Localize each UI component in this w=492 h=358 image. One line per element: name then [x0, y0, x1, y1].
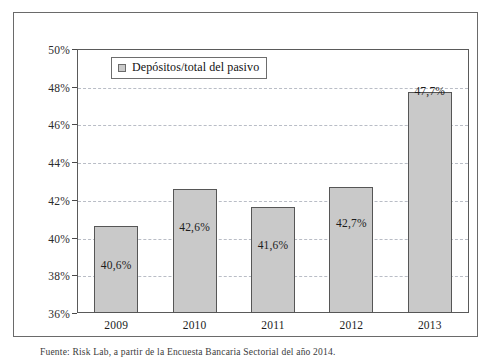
y-axis-tick: 46%	[14, 115, 77, 133]
bar-value-label: 42,6%	[179, 221, 210, 233]
bar-slot: 42,7%	[312, 49, 390, 313]
bar-slot: 42,6%	[155, 49, 233, 313]
y-axis-tick: 36%	[14, 304, 77, 322]
bar-slot: 41,6%	[234, 49, 312, 313]
bars-layer: 40,6%42,6%41,6%42,7%47,7%	[77, 49, 469, 313]
bar-slot: 40,6%	[77, 49, 155, 313]
chart-legend: Depósitos/total del pasivo	[111, 57, 267, 79]
x-axis-tick-label: 2013	[418, 319, 442, 331]
bar[interactable]	[329, 187, 373, 313]
x-axis-tick-label: 2010	[183, 319, 207, 331]
y-axis-tick-label: 36%	[48, 308, 77, 320]
y-axis: 50%48%46%44%42%40%38%36%	[14, 13, 77, 336]
y-axis-tick-label: 42%	[48, 195, 77, 207]
y-axis-tick-label: 46%	[48, 119, 77, 131]
bar-value-label: 40,6%	[101, 259, 132, 271]
bar[interactable]	[173, 189, 217, 313]
x-axis-tick-label: 2011	[261, 319, 284, 331]
legend-swatch-icon	[118, 64, 126, 72]
y-axis-tick: 44%	[14, 153, 77, 171]
y-axis-tick-mark	[72, 313, 77, 314]
bar-value-label: 42,7%	[336, 217, 367, 229]
y-axis-tick: 40%	[14, 229, 77, 247]
y-axis-tick: 48%	[14, 78, 77, 96]
figure-caption: Fuente: Risk Lab, a partir de la Encuest…	[40, 347, 470, 357]
y-axis-tick-label: 38%	[48, 270, 77, 282]
legend-label: Depósitos/total del pasivo	[132, 60, 259, 75]
bar[interactable]	[251, 207, 295, 313]
figure-frame: 50%48%46%44%42%40%38%36% 40,6%42,6%41,6%…	[13, 12, 478, 337]
x-axis: 20092010201120122013	[77, 315, 469, 339]
y-axis-tick-label: 50%	[48, 44, 77, 56]
bar[interactable]	[408, 92, 452, 313]
y-axis-tick-label: 48%	[48, 82, 77, 94]
x-axis-tick-label: 2009	[104, 319, 128, 331]
y-axis-tick-label: 40%	[48, 233, 77, 245]
y-axis-tick-label: 44%	[48, 157, 77, 169]
y-axis-tick: 38%	[14, 266, 77, 284]
bar-value-label: 41,6%	[258, 239, 289, 251]
x-axis-tick-label: 2012	[339, 319, 363, 331]
bar-slot: 47,7%	[391, 49, 469, 313]
bar-value-label: 47,7%	[414, 85, 445, 97]
y-axis-tick: 42%	[14, 191, 77, 209]
y-axis-tick: 50%	[14, 40, 77, 58]
